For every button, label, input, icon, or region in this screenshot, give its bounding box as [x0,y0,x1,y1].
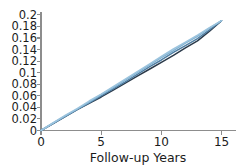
data-series-group [41,21,222,131]
x-tick-label: 10 [154,135,169,149]
data-line-curve-4 [41,21,222,131]
y-tick-label: 0.2 [19,8,37,22]
line-chart-plot: 00.020.040.060.080.10.120.140.160.180.2 … [0,0,244,168]
x-axis-tickmarks [41,131,222,136]
y-axis-tick-labels: 00.020.040.060.080.10.120.140.160.180.2 [11,8,37,138]
x-axis-tick-labels: 051015 [37,135,229,149]
x-tick-label: 0 [37,135,45,149]
chart-figure: 00.020.040.060.080.10.120.140.160.180.2 … [0,0,244,168]
x-tick-label: 15 [214,135,229,149]
y-axis-tickmarks [37,15,42,131]
x-axis-title: Follow-up Years [90,150,187,165]
x-tick-label: 5 [97,135,105,149]
